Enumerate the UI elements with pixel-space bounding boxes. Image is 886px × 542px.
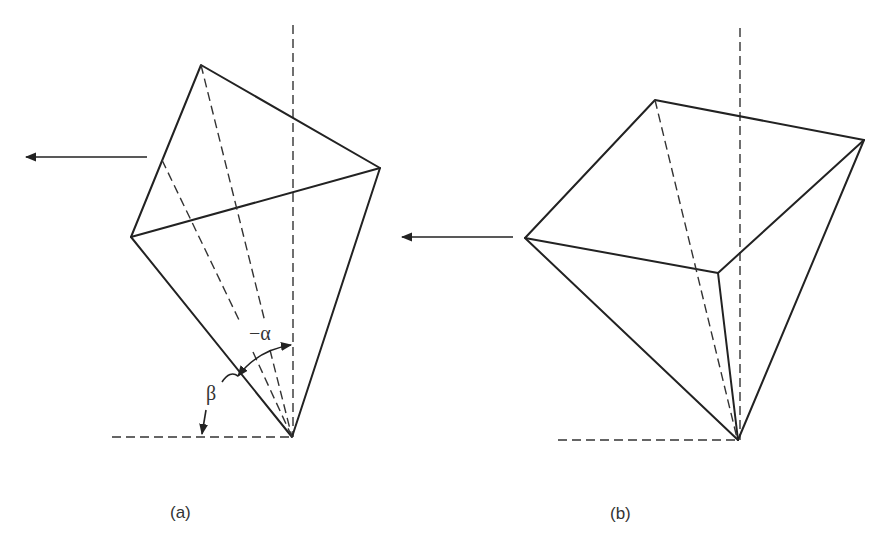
lateral-edge-front: [718, 273, 738, 440]
lateral-edge-left: [525, 238, 738, 440]
beta-pointer-lower: [202, 410, 206, 434]
wedge-outline-a: [131, 65, 380, 437]
pyramid-base-b: [525, 100, 864, 273]
lateral-edge-right: [738, 140, 864, 440]
panel-a: −α β (a): [26, 25, 380, 522]
caption-a: (a): [170, 503, 191, 522]
figure-canvas: −α β (a) (b): [0, 0, 886, 542]
hidden-edge-b: [655, 100, 737, 438]
beta-pointer-upper: [222, 374, 238, 382]
panel-b: (b): [402, 28, 864, 523]
alpha-arc: [238, 345, 291, 376]
hidden-edge-a-2: [201, 65, 265, 322]
hidden-edge-a-1: [162, 160, 240, 322]
alpha-label: −α: [249, 322, 271, 344]
beta-label: β: [206, 382, 216, 405]
caption-b: (b): [610, 504, 631, 523]
wedge-cross-edge-a: [131, 168, 380, 237]
